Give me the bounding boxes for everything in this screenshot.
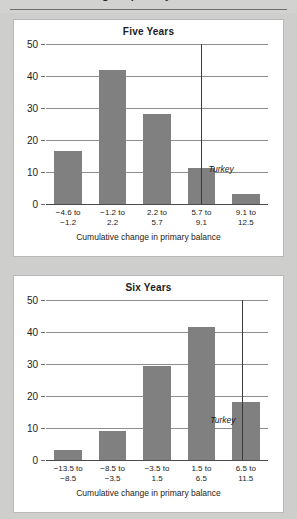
header-divider	[10, 9, 287, 10]
x-tick-label: −8.5 to−3.5	[90, 464, 134, 484]
x-tick-label-line: 11.5	[224, 474, 268, 484]
y-axis-label: 0	[32, 199, 38, 210]
x-tick-label-line: 1.5	[135, 474, 179, 484]
plot-area: 01020304050Turkey	[46, 44, 268, 204]
x-axis-title: Cumulative change in primary balance	[14, 232, 283, 242]
x-tick-label-line: 9.1	[179, 218, 223, 228]
y-axis-tick	[41, 204, 45, 205]
x-tick-label-line: −1.2	[46, 218, 90, 228]
x-tick-label: −13.5 to−8.5	[46, 464, 90, 484]
turkey-marker-line	[242, 300, 243, 460]
x-tick-label: −4.6 to−1.2	[46, 208, 90, 228]
y-axis-label: 0	[32, 455, 38, 466]
bar	[143, 114, 171, 204]
x-tick-label-line: −4.6 to	[46, 208, 90, 218]
x-tick-label-line: 6.5	[179, 474, 223, 484]
x-tick-label-line: −8.5 to	[90, 464, 134, 474]
x-tick-label-line: −3.5 to	[135, 464, 179, 474]
x-tick-label: −1.2 to2.2	[90, 208, 134, 228]
x-tick-label-line: 9.1 to	[224, 208, 268, 218]
y-axis-label: 30	[27, 103, 38, 114]
y-axis-label: 40	[27, 327, 38, 338]
bar	[143, 366, 171, 460]
plot-area: 01020304050Turkey	[46, 300, 268, 460]
x-axis-title: Cumulative change in primary balance	[14, 488, 283, 498]
bar	[232, 194, 260, 204]
y-axis-label: 50	[27, 295, 38, 306]
x-tick-label-line: 5.7	[135, 218, 179, 228]
gridline	[46, 76, 268, 77]
bar	[99, 70, 127, 204]
y-axis-tick	[41, 332, 45, 333]
turkey-marker-label: Turkey	[208, 164, 233, 174]
x-tick-label: 6.5 to11.5	[224, 464, 268, 484]
chart-panel-six-years: Six Years 01020304050Turkey −13.5 to−8.5…	[13, 275, 284, 513]
gridline	[46, 204, 268, 205]
y-axis-label: 40	[27, 71, 38, 82]
x-tick-label-line: −3.5	[90, 474, 134, 484]
y-axis-tick	[41, 460, 45, 461]
x-tick-label-line: 5.7 to	[179, 208, 223, 218]
turkey-marker-label: Turkey	[210, 415, 235, 425]
x-tick-label-line: 12.5	[224, 218, 268, 228]
gridline	[46, 44, 268, 45]
x-tick-label-line: 2.2	[90, 218, 134, 228]
x-tick-label: 5.7 to9.1	[179, 208, 223, 228]
y-axis-tick	[41, 108, 45, 109]
x-tick-label: −3.5 to1.5	[135, 464, 179, 484]
clipped-header-strip: Cumulative change in primary balance	[0, 0, 297, 13]
gridline	[46, 332, 268, 333]
y-axis-label: 50	[27, 39, 38, 50]
y-axis-tick	[41, 140, 45, 141]
y-axis-tick	[41, 364, 45, 365]
bar	[232, 402, 260, 460]
y-axis-label: 10	[27, 167, 38, 178]
chart-title: Five Years	[14, 26, 283, 37]
y-axis-label: 20	[27, 135, 38, 146]
x-tick-label-line: −1.2 to	[90, 208, 134, 218]
chart-panel-five-years: Five Years 01020304050Turkey −4.6 to−1.2…	[13, 19, 284, 257]
gridline	[46, 460, 268, 461]
x-tick-label-line: 2.2 to	[135, 208, 179, 218]
x-tick-label: 9.1 to12.5	[224, 208, 268, 228]
x-tick-labels: −4.6 to−1.2−1.2 to2.22.2 to5.75.7 to9.19…	[46, 208, 268, 228]
gridline	[46, 300, 268, 301]
clipped-header-title: Cumulative change in primary balance	[14, 0, 215, 1]
bar	[99, 431, 127, 460]
x-tick-label-line: 1.5 to	[179, 464, 223, 474]
bar	[54, 151, 82, 204]
x-tick-label-line: 6.5 to	[224, 464, 268, 474]
y-axis-tick	[41, 300, 45, 301]
chart-title: Six Years	[14, 282, 283, 293]
page-root: Cumulative change in primary balance Fiv…	[0, 0, 297, 519]
y-axis-tick	[41, 172, 45, 173]
bar	[54, 450, 82, 460]
y-axis-tick	[41, 76, 45, 77]
x-tick-labels: −13.5 to−8.5−8.5 to−3.5−3.5 to1.51.5 to6…	[46, 464, 268, 484]
y-axis-tick	[41, 396, 45, 397]
gridline	[46, 108, 268, 109]
x-tick-label: 1.5 to6.5	[179, 464, 223, 484]
turkey-marker-line	[201, 44, 202, 204]
x-tick-label: 2.2 to5.7	[135, 208, 179, 228]
y-axis-tick	[41, 428, 45, 429]
y-axis-label: 20	[27, 391, 38, 402]
y-axis-tick	[41, 44, 45, 45]
x-tick-label-line: −13.5 to	[46, 464, 90, 474]
y-axis-label: 10	[27, 423, 38, 434]
y-axis-label: 30	[27, 359, 38, 370]
bar	[188, 327, 216, 460]
x-tick-label-line: −8.5	[46, 474, 90, 484]
